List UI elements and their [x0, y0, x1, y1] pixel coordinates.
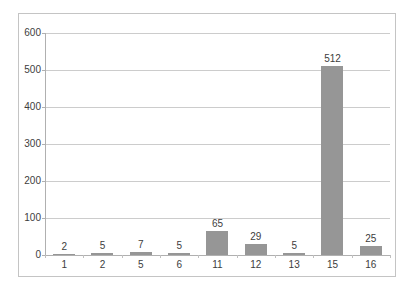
y-tick-label: 400 — [11, 102, 41, 112]
y-tick-label-wrap: 400 — [8, 102, 41, 112]
y-tick-label-wrap: 300 — [8, 139, 41, 149]
bar-slot: 5 — [275, 33, 313, 255]
y-tick-label-wrap: 0 — [8, 250, 41, 260]
bar[interactable] — [168, 253, 190, 255]
bar-slot: 7 — [122, 33, 160, 255]
x-tick-mark — [237, 255, 238, 258]
bar-value-label: 512 — [324, 54, 341, 64]
bar-slot: 2 — [45, 33, 83, 255]
y-tick-label: 300 — [11, 139, 41, 149]
bar-value-label: 65 — [212, 219, 223, 229]
y-tick-label: 0 — [11, 250, 41, 260]
y-tick-label: 600 — [11, 28, 41, 38]
bar-value-label: 5 — [291, 241, 297, 251]
bar-value-label: 5 — [100, 241, 106, 251]
x-tick-mark — [352, 255, 353, 258]
y-tick-label: 500 — [11, 65, 41, 75]
x-tick-mark — [45, 255, 46, 258]
y-tick-label: 200 — [11, 176, 41, 186]
x-axis-line — [45, 255, 391, 256]
bar-value-label: 7 — [138, 240, 144, 250]
bar-chart: 0100200300400500600 25756529551225 12561… — [0, 0, 417, 294]
bar-slot: 512 — [313, 33, 351, 255]
bar[interactable] — [206, 231, 228, 255]
x-tick-mark — [83, 255, 84, 258]
bar[interactable] — [245, 244, 267, 255]
x-tick-label: 11 — [198, 259, 236, 271]
y-tick-label-wrap: 100 — [8, 213, 41, 223]
x-tick-label: 5 — [122, 259, 160, 271]
x-tick-label: 1 — [45, 259, 83, 271]
y-tick-label-wrap: 600 — [8, 28, 41, 38]
bar-slot: 29 — [237, 33, 275, 255]
bar[interactable] — [360, 246, 382, 255]
bar[interactable] — [53, 254, 75, 256]
bar[interactable] — [130, 252, 152, 255]
bar-value-label: 2 — [61, 242, 67, 252]
bar[interactable] — [91, 253, 113, 255]
bar-value-label: 5 — [176, 241, 182, 251]
bar[interactable] — [321, 66, 343, 255]
bar-slot: 5 — [160, 33, 198, 255]
bar-slot: 25 — [352, 33, 390, 255]
x-tick-mark — [313, 255, 314, 258]
x-tick-mark — [122, 255, 123, 258]
x-tick-mark — [160, 255, 161, 258]
x-tick-label: 15 — [313, 259, 351, 271]
y-tick-label-wrap: 500 — [8, 65, 41, 75]
x-tick-label: 12 — [237, 259, 275, 271]
x-tick-label: 6 — [160, 259, 198, 271]
x-tick-label: 16 — [352, 259, 390, 271]
bar-value-label: 29 — [250, 232, 261, 242]
bar-slot: 5 — [83, 33, 121, 255]
bar-value-label: 25 — [365, 234, 376, 244]
bars-layer: 25756529551225 — [45, 33, 390, 255]
x-tick-label: 2 — [83, 259, 121, 271]
x-tick-label: 13 — [275, 259, 313, 271]
y-tick-label-wrap: 200 — [8, 176, 41, 186]
bar-slot: 65 — [198, 33, 236, 255]
x-tick-mark — [390, 255, 391, 258]
x-tick-mark — [198, 255, 199, 258]
x-tick-mark — [275, 255, 276, 258]
x-axis-tick-labels: 12561112131516 — [45, 259, 390, 275]
bar[interactable] — [283, 253, 305, 255]
y-tick-label: 100 — [11, 213, 41, 223]
